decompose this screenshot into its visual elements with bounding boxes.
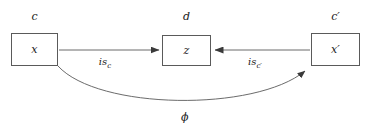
node-label-x-prime: x′ [331,44,340,55]
category-label-right: c′ [311,11,360,22]
edge-label-is-c-base: is [99,56,107,67]
node-box-right[interactable]: x′ [311,33,360,66]
arrow-phi [58,66,305,100]
edge-label-phi: ϕ [181,112,189,123]
edge-label-is-c-subscript: c [107,62,111,70]
edge-label-is-c-prime-subscript: c′ [256,62,262,70]
edge-label-is-c: isc [85,57,125,67]
node-label-x: x [31,44,37,55]
commutative-diagram: c d c′ x z x′ isc isc′ ϕ [0,0,368,136]
edge-label-is-c-prime: isc′ [235,57,275,67]
node-box-left[interactable]: x [11,33,58,66]
node-label-z: z [184,45,190,56]
category-label-left: c [11,11,58,22]
node-box-middle[interactable]: z [162,35,211,66]
category-label-middle: d [162,11,211,22]
